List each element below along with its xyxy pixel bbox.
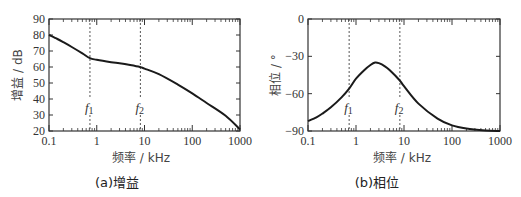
y-tick-label: −90 bbox=[285, 124, 304, 138]
x-tick-label: 10 bbox=[398, 134, 410, 148]
x-tick-label: 100 bbox=[183, 134, 201, 148]
x-tick-label: 1000 bbox=[228, 134, 252, 148]
y-tick-label: 60 bbox=[33, 60, 45, 74]
marker-subscript: 2 bbox=[398, 105, 403, 116]
x-tick-label: 1000 bbox=[488, 134, 512, 148]
y-tick-label: −30 bbox=[285, 49, 304, 63]
gain-curve bbox=[49, 35, 240, 129]
y-tick-label: 70 bbox=[33, 44, 45, 58]
y-tick-label: 40 bbox=[33, 92, 45, 106]
gain-chart-panel: 0.111010010002030405060708090f1f2频率 / kH… bbox=[11, 12, 252, 190]
phase-curve bbox=[308, 62, 500, 131]
marker-subscript: 1 bbox=[89, 105, 94, 116]
y-tick-label: 50 bbox=[33, 76, 45, 90]
y-tick-label: −60 bbox=[285, 87, 304, 101]
x-axis-label: 频率 / kHz bbox=[112, 150, 170, 165]
y-axis-label: 增益 / dB bbox=[11, 49, 25, 101]
y-tick-label: 20 bbox=[33, 124, 45, 138]
chart-caption: (a)增益 bbox=[95, 175, 139, 190]
bode-plot-figure: 0.111010010002030405060708090f1f2频率 / kH… bbox=[0, 0, 521, 197]
phase-chart-panel: 0.11101001000−90−60−300f1f2频率 / kHz相位 / … bbox=[268, 12, 512, 190]
x-tick-label: 10 bbox=[139, 134, 151, 148]
x-axis-label: 频率 / kHz bbox=[373, 150, 431, 165]
y-tick-label: 30 bbox=[33, 108, 45, 122]
marker-subscript: 2 bbox=[139, 105, 144, 116]
x-tick-label: 100 bbox=[443, 134, 461, 148]
y-tick-label: 0 bbox=[298, 12, 304, 26]
chart-caption: (b)相位 bbox=[355, 175, 399, 190]
y-tick-label: 80 bbox=[33, 28, 45, 42]
marker-subscript: 1 bbox=[348, 105, 353, 116]
y-axis-label: 相位 / ° bbox=[268, 54, 283, 96]
x-tick-label: 1 bbox=[94, 134, 100, 148]
x-tick-label: 1 bbox=[353, 134, 359, 148]
y-tick-label: 90 bbox=[33, 12, 45, 26]
